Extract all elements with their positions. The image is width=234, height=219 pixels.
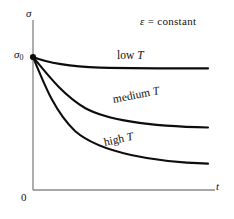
initial-stress-subscript: 0	[19, 53, 23, 62]
stress-relaxation-figure: σ t 0 σ0 ε = constant low T medium T hig…	[0, 0, 234, 219]
strain-annotation-text: = constant	[145, 15, 197, 27]
curve-label-low-temperature: low T	[117, 50, 144, 62]
origin-label: 0	[21, 192, 27, 203]
strain-constant-annotation: ε = constant	[140, 16, 196, 27]
curve-high-temperature	[33, 57, 208, 164]
initial-stress-label: σ0	[14, 49, 23, 62]
plot-canvas	[0, 0, 234, 219]
curve-label-low-prefix: low	[117, 49, 137, 61]
y-axis-label: σ	[26, 8, 31, 19]
x-axis-label: t	[216, 181, 219, 192]
initial-stress-point	[30, 54, 36, 60]
curve-label-low-temp-symbol: T	[137, 49, 143, 61]
